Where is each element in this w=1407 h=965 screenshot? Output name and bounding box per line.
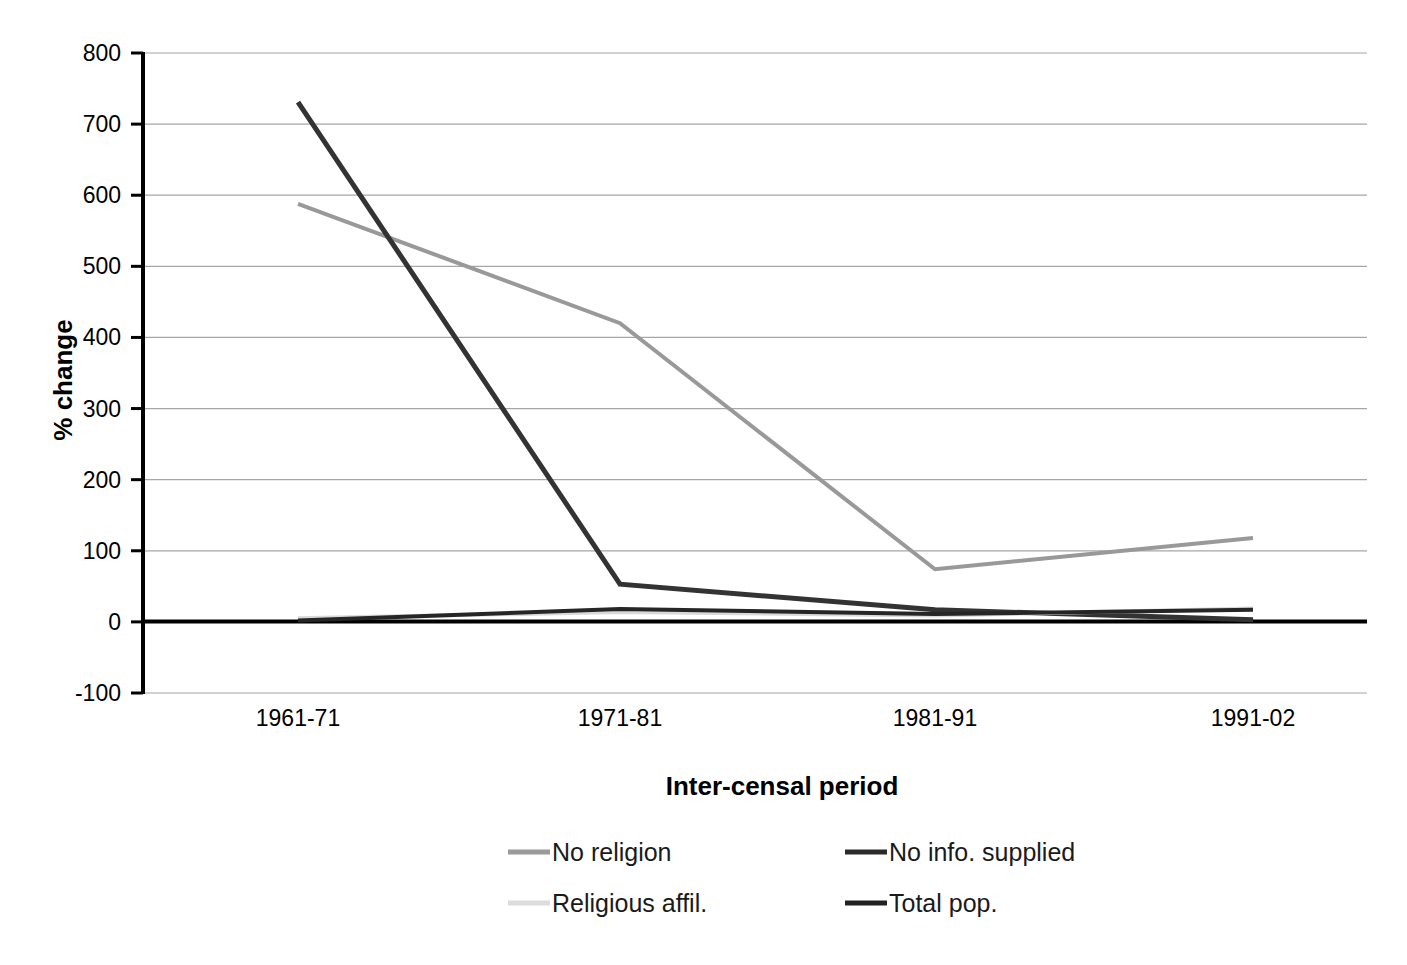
y-axis-tick-label: 200 <box>83 467 121 493</box>
y-axis-tick-label: 700 <box>83 111 121 137</box>
line-chart: 8007006005004003002001000-100 1961-71197… <box>0 0 1407 965</box>
x-axis-tick-label: 1971-81 <box>578 705 662 731</box>
chart-figure: 8007006005004003002001000-100 1961-71197… <box>0 0 1407 965</box>
y-axis-tick-label: 100 <box>83 538 121 564</box>
legend-label: No religion <box>552 838 672 866</box>
chart-background <box>0 0 1407 965</box>
x-axis-tick-label: 1961-71 <box>256 705 340 731</box>
y-axis-tick-label: 500 <box>83 253 121 279</box>
y-axis-tick-label: 600 <box>83 182 121 208</box>
legend-label: Religious affil. <box>552 889 707 917</box>
x-axis-tick-label: 1991-02 <box>1211 705 1295 731</box>
legend-label: Total pop. <box>889 889 997 917</box>
x-axis-title: Inter-censal period <box>666 771 899 801</box>
y-axis-tick-label: 800 <box>83 40 121 66</box>
y-axis-tick-label: -100 <box>75 680 121 706</box>
y-axis-tick-label: 400 <box>83 324 121 350</box>
legend-label: No info. supplied <box>889 838 1075 866</box>
x-axis-tick-label: 1981-91 <box>893 705 977 731</box>
y-axis-tick-label: 0 <box>108 609 121 635</box>
y-axis-tick-label: 300 <box>83 396 121 422</box>
y-axis-title: % change <box>48 319 78 440</box>
